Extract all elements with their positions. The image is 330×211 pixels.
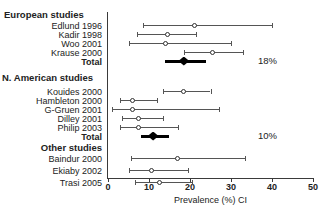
group-heading-european: European studies — [4, 10, 84, 19]
point-estimate-marker — [181, 89, 186, 94]
total-label-european: Total — [81, 58, 102, 67]
confidence-interval-line — [129, 43, 232, 44]
pooled-percent-namerican: 10% — [258, 131, 277, 141]
tick-label-10: 10 — [144, 183, 154, 192]
ci-cap-left — [112, 107, 113, 112]
horizontal-axis — [107, 178, 314, 179]
forest-plot: European studies Edlund 1996 Kadir 1998 … — [0, 0, 330, 211]
ci-cap-left — [184, 50, 185, 55]
study-label-column: European studies Edlund 1996 Kadir 1998 … — [0, 0, 104, 211]
pooled-percent-european: 18% — [258, 56, 277, 66]
point-estimate-marker — [165, 32, 170, 37]
ci-cap-right — [211, 89, 212, 94]
ci-cap-right — [192, 180, 193, 185]
tick-label-50: 50 — [308, 183, 318, 192]
confidence-interval-line — [120, 127, 177, 128]
confidence-interval-line — [120, 100, 157, 101]
point-estimate-marker — [130, 98, 135, 103]
ci-cap-left — [129, 41, 130, 46]
point-estimate-marker — [130, 107, 135, 112]
point-estimate-marker — [149, 168, 154, 173]
x-axis-title: Prevalence (%) CI — [107, 196, 314, 205]
ci-cap-left — [143, 23, 144, 28]
confidence-interval-line — [135, 182, 192, 183]
study-label-baindur: Baindur 2000 — [48, 155, 102, 164]
tick-label-30: 30 — [226, 183, 236, 192]
ci-cap-left — [135, 180, 136, 185]
ci-cap-right — [272, 23, 273, 28]
study-label-ekiaby: Ekiaby 2002 — [52, 167, 102, 176]
confidence-interval-line — [122, 118, 163, 119]
group-heading-namerican: N. American studies — [2, 73, 93, 82]
ci-cap-right — [157, 98, 158, 103]
ci-cap-right — [163, 116, 164, 121]
tick-label-0: 0 — [105, 183, 110, 192]
ci-cap-right — [219, 107, 220, 112]
ci-cap-left — [122, 116, 123, 121]
vertical-axis — [107, 12, 108, 178]
ci-cap-right — [178, 125, 179, 130]
point-estimate-marker — [136, 116, 141, 121]
ci-cap-left — [131, 156, 132, 161]
point-estimate-marker — [192, 23, 197, 28]
ci-cap-right — [231, 41, 232, 46]
ci-cap-right — [243, 50, 244, 55]
point-estimate-marker — [163, 41, 168, 46]
summary-diamond — [178, 57, 189, 66]
total-label-namerican: Total — [81, 133, 102, 142]
ci-cap-right — [245, 156, 246, 161]
ci-cap-left — [129, 168, 130, 173]
confidence-interval-line — [131, 158, 246, 159]
tick-label-40: 40 — [267, 183, 277, 192]
point-estimate-marker — [157, 180, 162, 185]
ci-cap-left — [163, 89, 164, 94]
ci-cap-left — [120, 125, 121, 130]
summary-diamond — [148, 132, 159, 141]
confidence-interval-line — [163, 91, 210, 92]
ci-cap-right — [188, 168, 189, 173]
ci-cap-right — [196, 32, 197, 37]
point-estimate-marker — [136, 125, 141, 130]
group-heading-other: Other studies — [41, 143, 102, 152]
confidence-interval-line — [143, 25, 272, 26]
confidence-interval-line — [129, 170, 188, 171]
point-estimate-marker — [210, 50, 215, 55]
confidence-interval-line — [112, 109, 219, 110]
study-label-trasi: Trasi 2005 — [60, 179, 102, 188]
tick-label-20: 20 — [185, 183, 195, 192]
ci-cap-left — [137, 32, 138, 37]
point-estimate-marker — [175, 156, 180, 161]
ci-cap-left — [120, 98, 121, 103]
